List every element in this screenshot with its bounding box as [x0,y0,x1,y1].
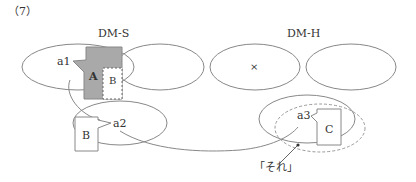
label-box-b-top: B [109,76,116,86]
dms-title: DM-S [98,28,129,39]
sore-arrow-dot [296,143,299,146]
dms-right-ellipse [116,44,204,90]
box-b-bottom-shape [75,117,111,151]
label-box-a: A [89,71,98,82]
problem-number: （7） [8,6,37,17]
label-box-c: C [325,124,333,135]
label-box-b-bottom: B [82,130,90,141]
diagram-canvas [0,0,416,182]
label-a2: a2 [113,118,127,129]
label-a3: a3 [297,110,311,121]
dmh-right-ellipse [306,44,396,90]
label-a1: a1 [57,56,71,67]
dmh-title: DM-H [287,28,320,39]
cross-mark: × [250,62,258,72]
label-sore: 「それ」 [254,162,298,173]
a2-to-a3-curve [120,127,298,151]
